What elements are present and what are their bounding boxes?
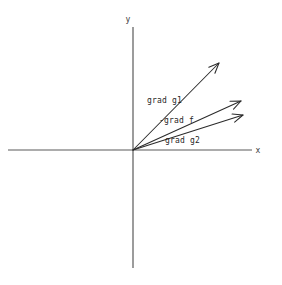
vector-label-neg-grad-f: -grad f [159, 116, 194, 125]
axes-group [8, 27, 252, 268]
vector-diagram-figure: x y grad g1 -grad f grad g2 [0, 0, 282, 285]
diagram-canvas: x y grad g1 -grad f grad g2 [0, 0, 282, 285]
vector-label-grad-g1: grad g1 [147, 96, 182, 105]
vector-label-grad-g2: grad g2 [165, 136, 200, 145]
x-axis-label: x [256, 146, 261, 155]
y-axis-label: y [126, 15, 131, 24]
